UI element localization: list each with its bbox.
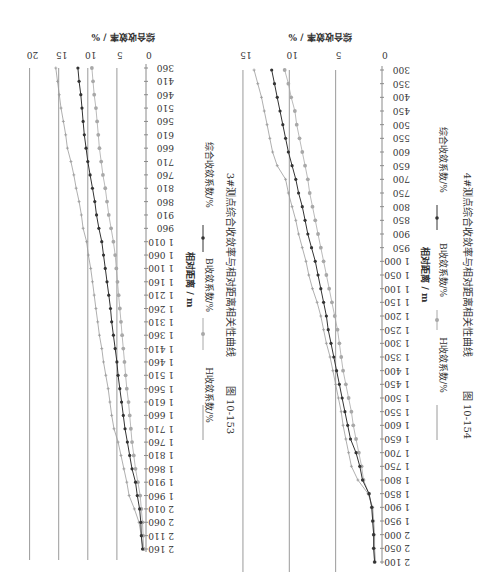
x-tick-label: 1 560 bbox=[148, 384, 174, 394]
x-axis-title-right: 相对距离 / m bbox=[420, 247, 431, 303]
y-tick-label: 20 bbox=[27, 50, 39, 60]
x-tick-label: 860 bbox=[157, 197, 174, 207]
legend-label-b: B收敛系数/% bbox=[204, 258, 215, 313]
data-point bbox=[310, 246, 313, 249]
x-tick-label: 350 bbox=[393, 79, 410, 89]
data-point bbox=[281, 123, 284, 126]
data-point bbox=[117, 293, 121, 297]
data-point bbox=[329, 342, 332, 345]
data-point bbox=[319, 246, 323, 250]
x-tick-label: 750 bbox=[393, 188, 410, 198]
series-line bbox=[285, 70, 375, 562]
data-point bbox=[322, 259, 326, 263]
data-point bbox=[311, 205, 315, 209]
x-tick-label: 1 410 bbox=[148, 344, 174, 354]
data-point bbox=[283, 68, 287, 72]
x-tick-label: 1 700 bbox=[384, 448, 410, 458]
data-point bbox=[290, 164, 293, 167]
caption-text-right: 4#测点综合收敛率与相对距离相关性曲线 bbox=[462, 173, 474, 358]
data-point bbox=[119, 320, 123, 324]
data-point bbox=[273, 82, 276, 85]
data-point bbox=[337, 341, 341, 345]
data-point bbox=[140, 534, 143, 537]
data-point bbox=[109, 226, 113, 230]
data-point bbox=[330, 300, 334, 304]
data-point bbox=[314, 260, 317, 263]
y-axis-title-left: 综合收敛率 / % bbox=[91, 32, 155, 43]
x-tick-label: 1 660 bbox=[148, 410, 174, 420]
data-point bbox=[336, 328, 340, 332]
x-tick-label: 1 300 bbox=[384, 338, 410, 348]
data-point bbox=[96, 133, 100, 137]
x-tick-label: 360 bbox=[157, 63, 174, 73]
data-point bbox=[105, 280, 108, 283]
data-point bbox=[136, 494, 139, 497]
data-point bbox=[335, 369, 338, 372]
data-point bbox=[306, 232, 309, 235]
rotated-page: 0510152036041046051056061066071076081086… bbox=[0, 0, 485, 588]
x-tick-label: 600 bbox=[393, 147, 410, 157]
data-point bbox=[325, 314, 328, 317]
data-point bbox=[349, 437, 352, 440]
x-tick-label: 800 bbox=[393, 202, 410, 212]
series-line bbox=[254, 70, 375, 562]
data-point bbox=[303, 164, 307, 168]
data-point bbox=[118, 307, 122, 311]
data-point bbox=[139, 521, 142, 524]
data-point bbox=[107, 294, 110, 297]
data-point bbox=[95, 213, 98, 216]
data-point bbox=[109, 307, 112, 310]
data-point bbox=[80, 106, 83, 109]
data-point bbox=[319, 287, 322, 290]
data-point bbox=[367, 492, 370, 495]
x-tick-label: 1 950 bbox=[384, 516, 410, 526]
x-tick-label: 650 bbox=[393, 161, 410, 171]
x-tick-label: 1 260 bbox=[148, 304, 174, 314]
data-point bbox=[120, 400, 123, 403]
x-tick-label: 1 650 bbox=[384, 434, 410, 444]
data-point bbox=[126, 441, 129, 444]
data-point bbox=[103, 186, 107, 190]
x-tick-label: 1 760 bbox=[148, 437, 174, 447]
legend-label-combined-right: 综合收敛系数/% bbox=[438, 127, 449, 193]
x-axis-title-left: 相对距离 / m bbox=[185, 252, 196, 308]
data-point bbox=[327, 287, 331, 291]
x-tick-label: 1 250 bbox=[384, 325, 410, 335]
x-tick-label: 1 210 bbox=[148, 290, 174, 300]
data-point bbox=[94, 106, 98, 110]
x-tick-label: 1 500 bbox=[384, 393, 410, 403]
data-point bbox=[114, 347, 117, 350]
x-tick-label: 2 060 bbox=[148, 517, 174, 527]
data-point bbox=[130, 440, 134, 444]
data-point bbox=[134, 481, 137, 484]
data-point bbox=[120, 333, 124, 337]
x-tick-label: 400 bbox=[393, 92, 410, 102]
y-tick-label: 10 bbox=[85, 50, 97, 60]
data-point bbox=[293, 109, 297, 113]
data-point bbox=[372, 547, 375, 550]
data-point bbox=[93, 200, 96, 203]
data-point bbox=[341, 396, 344, 399]
x-tick-label: 1 800 bbox=[384, 475, 410, 485]
data-point bbox=[84, 147, 87, 150]
data-point bbox=[90, 66, 94, 70]
x-tick-label: 1 460 bbox=[148, 357, 174, 367]
x-tick-label: 660 bbox=[157, 143, 174, 153]
data-point bbox=[303, 219, 306, 222]
y-tick-label: 5 bbox=[117, 50, 123, 60]
data-point bbox=[350, 410, 354, 414]
data-point bbox=[132, 454, 136, 458]
data-point bbox=[99, 160, 103, 164]
x-tick-label: 1 310 bbox=[148, 317, 174, 327]
data-point bbox=[287, 150, 290, 153]
data-point bbox=[102, 253, 105, 256]
x-tick-label: 1 200 bbox=[384, 311, 410, 321]
x-tick-label: 300 bbox=[393, 65, 410, 75]
y-tick-label: 10 bbox=[286, 50, 298, 60]
data-point bbox=[322, 301, 325, 304]
x-tick-label: 2 010 bbox=[148, 504, 174, 514]
x-tick-label: 410 bbox=[157, 76, 174, 86]
data-point bbox=[113, 253, 117, 257]
data-point bbox=[361, 478, 364, 481]
x-tick-label: 1 850 bbox=[384, 489, 410, 499]
